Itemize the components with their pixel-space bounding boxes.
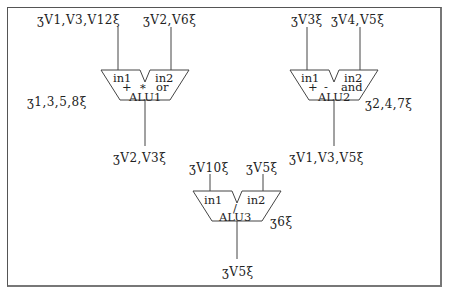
alu2-steps: ʒ2,4,7ξ	[365, 98, 412, 110]
alu-diagram-lines	[0, 0, 450, 295]
alu2-name: ALU2	[318, 92, 350, 103]
alu2-op-add: +	[308, 82, 318, 93]
alu1-out-vars: ʒV2,V3ξ	[113, 152, 166, 164]
alu2-in1-vars: ʒV3ξ	[291, 14, 323, 26]
alu3-name: ALU3	[219, 212, 251, 223]
alu3-out-vars: ʒV5ξ	[222, 266, 254, 278]
alu3-in2-vars: ʒV5ξ	[246, 162, 278, 174]
alu2-out-vars: ʒV1,V3,V5ξ	[289, 152, 364, 164]
alu1-steps: ʒ1,3,5,8ξ	[27, 96, 87, 108]
alu3-in1-vars: ʒV10ξ	[189, 162, 229, 174]
alu3-in1-label: in1	[204, 195, 222, 206]
alu1-in2-vars: ʒV2,V6ξ	[143, 14, 196, 26]
alu3-in2-label: in2	[247, 195, 265, 206]
alu1-name: ALU1	[129, 92, 161, 103]
alu1-in1-vars: ʒV1,V3,V12ξ	[37, 14, 120, 26]
alu2-in2-vars: ʒV4,V5ξ	[331, 14, 384, 26]
alu3-steps: ʒ6ξ	[270, 216, 293, 228]
